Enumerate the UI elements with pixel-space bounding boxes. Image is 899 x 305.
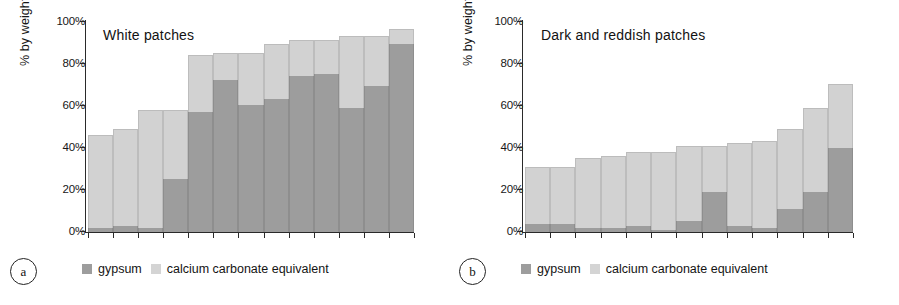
- bar-a-9: [289, 40, 314, 232]
- segment-ccq: [651, 152, 676, 230]
- x-tickmark: [777, 233, 778, 238]
- segment-gypsum: [88, 228, 113, 232]
- segment-gypsum: [752, 228, 777, 232]
- segment-ccq: [238, 53, 263, 106]
- segment-ccq: [264, 44, 289, 99]
- figure-stacked-bar-charts: % by weight 100% 80% 60% 40% 20% 0% Whit…: [0, 0, 899, 305]
- segment-gypsum: [113, 226, 138, 232]
- ccq-swatch-icon: [590, 264, 600, 274]
- gypsum-swatch-icon: [82, 264, 92, 274]
- plot-area-a: [86, 21, 414, 232]
- segment-gypsum: [601, 228, 626, 232]
- segment-gypsum: [264, 99, 289, 232]
- segment-gypsum: [163, 179, 188, 232]
- legend-item-gypsum-a: gypsum: [82, 262, 142, 276]
- x-tickmark: [289, 233, 290, 238]
- x-tickmark: [364, 233, 365, 238]
- x-tickmark: [626, 233, 627, 238]
- x-tickmark: [853, 233, 854, 238]
- segment-ccq: [88, 135, 113, 228]
- bar-b-5: [626, 152, 651, 232]
- legend-label-ccq-a: calcium carbonate equivalent: [167, 262, 329, 276]
- bar-b-7: [676, 146, 701, 233]
- segment-ccq: [803, 108, 828, 192]
- segment-ccq: [289, 40, 314, 76]
- segment-ccq: [550, 167, 575, 224]
- segment-gypsum: [213, 80, 238, 232]
- x-tickmark: [550, 233, 551, 238]
- x-tickmark: [113, 233, 114, 238]
- segment-gypsum: [651, 230, 676, 232]
- x-tickmark: [339, 233, 340, 238]
- legend-b: gypsum calcium carbonate equivalent: [521, 262, 768, 276]
- bar-a-2: [113, 129, 138, 232]
- segment-ccq: [777, 129, 802, 209]
- x-tickmark: [213, 233, 214, 238]
- bar-b-8: [702, 146, 727, 233]
- x-tickmark: [188, 233, 189, 238]
- bar-b-13: [828, 84, 853, 232]
- segment-gypsum: [238, 105, 263, 232]
- segment-ccq: [314, 40, 339, 74]
- segment-ccq: [339, 36, 364, 108]
- segment-gypsum: [803, 192, 828, 232]
- segment-ccq: [702, 146, 727, 192]
- legend-label-gypsum-b: gypsum: [537, 262, 581, 276]
- plot-title-b: Dark and reddish patches: [541, 27, 705, 43]
- bar-a-6: [213, 53, 238, 232]
- segment-ccq: [163, 110, 188, 180]
- legend-item-gypsum-b: gypsum: [521, 262, 581, 276]
- segment-gypsum: [575, 228, 600, 232]
- x-tickmark: [752, 233, 753, 238]
- bar-a-8: [264, 44, 289, 232]
- x-tickmark: [314, 233, 315, 238]
- plot-area-b: [523, 21, 853, 232]
- bar-a-5: [188, 55, 213, 232]
- segment-gypsum: [676, 221, 701, 232]
- segment-gypsum: [138, 228, 163, 232]
- x-tickmark: [575, 233, 576, 238]
- x-tickmark: [676, 233, 677, 238]
- bar-a-10: [314, 40, 339, 232]
- x-tickmark: [264, 233, 265, 238]
- x-tickmark: [525, 233, 526, 238]
- segment-ccq: [213, 53, 238, 80]
- bar-b-9: [727, 143, 752, 232]
- segment-ccq: [525, 167, 550, 224]
- bar-b-1: [525, 167, 550, 232]
- bar-a-12: [364, 36, 389, 232]
- bar-a-3: [138, 110, 163, 232]
- segment-gypsum: [314, 74, 339, 232]
- bar-a-7: [238, 53, 263, 232]
- bar-b-12: [803, 108, 828, 232]
- segment-ccq: [601, 156, 626, 228]
- bar-b-2: [550, 167, 575, 232]
- segment-gypsum: [777, 209, 802, 232]
- segment-gypsum: [626, 226, 651, 232]
- x-tickmark: [389, 233, 390, 238]
- x-tickmark: [601, 233, 602, 238]
- segment-ccq: [138, 110, 163, 228]
- segment-gypsum: [339, 108, 364, 232]
- segment-ccq: [626, 152, 651, 226]
- segment-ccq: [727, 143, 752, 225]
- x-tickmark: [238, 233, 239, 238]
- x-tickmark: [651, 233, 652, 238]
- panel-tag-a: a: [10, 258, 37, 285]
- x-tickmark: [138, 233, 139, 238]
- segment-ccq: [752, 141, 777, 227]
- bar-b-11: [777, 129, 802, 232]
- bar-a-1: [88, 135, 113, 232]
- bar-a-4: [163, 110, 188, 232]
- legend-label-gypsum-a: gypsum: [98, 262, 142, 276]
- legend-item-ccq-a: calcium carbonate equivalent: [151, 262, 329, 276]
- legend-item-ccq-b: calcium carbonate equivalent: [590, 262, 768, 276]
- segment-ccq: [828, 84, 853, 147]
- x-tickmark: [88, 233, 89, 238]
- segment-ccq: [188, 55, 213, 112]
- x-tickmark: [828, 233, 829, 238]
- bar-b-10: [752, 141, 777, 232]
- x-tickmark: [414, 233, 415, 238]
- segment-gypsum: [702, 192, 727, 232]
- bar-a-13: [389, 29, 414, 232]
